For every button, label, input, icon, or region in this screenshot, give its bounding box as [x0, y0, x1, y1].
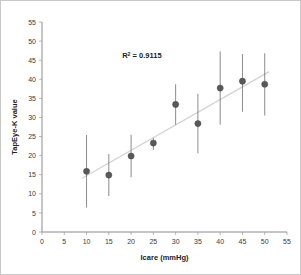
x-tick-label: 40	[216, 238, 224, 245]
r-squared-annotation: R2 = 0.9115	[122, 51, 161, 61]
x-tick-label: 55	[283, 238, 291, 245]
data-point	[150, 140, 156, 146]
x-tick-label: 45	[239, 238, 247, 245]
data-point	[217, 85, 223, 91]
x-tick-label: 30	[172, 238, 180, 245]
y-axis-ticks: 0510152025303540455055	[28, 19, 42, 236]
chart-figure: 0510152025303540455055 05101520253035404…	[0, 0, 301, 275]
x-axis-ticks: 0510152025303540455055	[40, 232, 291, 245]
y-tick-label: 20	[28, 152, 36, 159]
x-tick-label: 10	[83, 238, 91, 245]
y-tick-label: 40	[28, 76, 36, 83]
x-tick-label: 35	[194, 238, 202, 245]
data-point	[106, 172, 112, 178]
scatter-plot: 0510152025303540455055 05101520253035404…	[1, 1, 301, 275]
error-bars	[87, 51, 265, 207]
data-point	[173, 101, 179, 107]
y-tick-label: 30	[28, 114, 36, 121]
data-point	[262, 81, 268, 87]
data-point	[83, 168, 89, 174]
y-tick-label: 10	[28, 190, 36, 197]
x-tick-label: 15	[105, 238, 113, 245]
axes	[42, 22, 287, 232]
y-tick-label: 50	[28, 38, 36, 45]
y-tick-label: 55	[28, 19, 36, 26]
x-tick-label: 50	[261, 238, 269, 245]
x-tick-label: 20	[127, 238, 135, 245]
y-tick-label: 45	[28, 57, 36, 64]
y-axis-title: TapEye-K value	[10, 99, 19, 154]
y-tick-label: 35	[28, 95, 36, 102]
y-tick-label: 25	[28, 133, 36, 140]
data-point	[195, 120, 201, 126]
axis-lines	[42, 22, 287, 232]
y-tick-label: 15	[28, 171, 36, 178]
data-point	[128, 153, 134, 159]
x-tick-label: 25	[149, 238, 157, 245]
data-point	[239, 78, 245, 84]
x-axis-title: Icare (mmHg)	[141, 253, 189, 262]
y-tick-label: 5	[32, 210, 36, 217]
x-tick-label: 5	[62, 238, 66, 245]
x-tick-label: 0	[40, 238, 44, 245]
y-tick-label: 0	[32, 229, 36, 236]
